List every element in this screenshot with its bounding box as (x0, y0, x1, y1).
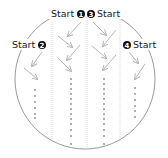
lane-2-dots (34, 89, 36, 119)
arrow-icon (93, 22, 106, 35)
arrow-icon (103, 30, 116, 46)
badge-number: 3 (89, 11, 94, 19)
start-3-label: 3 Start (87, 8, 120, 19)
arrow-icon (68, 22, 81, 36)
start-label-text: Start (51, 8, 74, 19)
start-label-text: Start (97, 8, 120, 19)
start-2-label: Start 2 (12, 39, 46, 50)
lane-3-dots (103, 78, 105, 145)
lane-4-dots (134, 87, 136, 118)
start-label-text: Start (133, 39, 156, 50)
outer-circle (15, 9, 155, 149)
start-4-label: 4 Start (123, 39, 156, 50)
lane-dividers (52, 10, 120, 149)
arrow-icon (58, 36, 72, 47)
lane-1-arrows (58, 22, 81, 71)
badge-number: 4 (125, 42, 130, 50)
start-label-text: Start (12, 39, 35, 50)
lane-4-arrows (129, 52, 145, 79)
start-1-label: Start 1 (51, 8, 85, 19)
lane-3-arrows (92, 22, 116, 70)
badge-number: 1 (79, 11, 84, 19)
lane-1-dots (70, 78, 72, 145)
arrow-icon (32, 52, 42, 66)
arrow-icon (129, 52, 138, 63)
search-pattern-diagram: Start 1 3 Start Start 2 4 Start (0, 0, 168, 158)
arrow-icon (67, 45, 80, 60)
arrow-icon (135, 64, 145, 79)
arrow-icon (92, 46, 106, 58)
lane-2-arrows (24, 52, 42, 79)
arrow-icon (24, 68, 37, 79)
arrow-icon (58, 58, 71, 71)
badge-number: 2 (40, 42, 45, 50)
